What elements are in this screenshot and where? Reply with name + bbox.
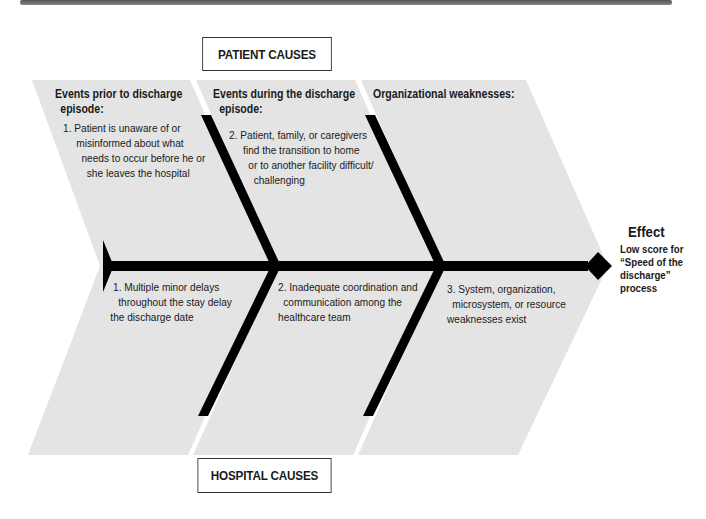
effect-description: Low score for “Speed of the discharge” p… [620, 243, 683, 295]
hospital-cause-1: 1. Multiple minor delays throughout the … [113, 280, 232, 325]
category-heading-1: Events prior to discharge episode: [55, 87, 182, 117]
patient-causes-label: PATIENT CAUSES [202, 37, 332, 71]
category-heading-3: Organizational weaknesses: [373, 87, 514, 102]
hospital-causes-label: HOSPITAL CAUSES [197, 458, 331, 493]
spine [103, 261, 588, 271]
patient-cause-2: 2. Patient, family, or caregivers find t… [229, 128, 374, 188]
hospital-cause-2: 2. Inadequate coordination and communica… [278, 280, 418, 325]
category-heading-2: Events during the discharge episode: [213, 87, 355, 117]
effect-title: Effect [628, 223, 665, 240]
patient-cause-1: 1. Patient is unaware of or misinformed … [63, 121, 205, 181]
hospital-cause-3: 3. System, organization, microsystem, or… [447, 282, 566, 327]
fishbone-graphic [0, 0, 706, 519]
